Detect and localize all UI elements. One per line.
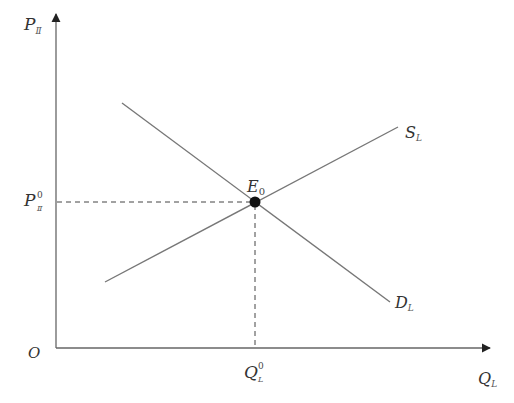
equilibrium-quantity-sub: L <box>257 375 263 384</box>
y-axis-label: PⅡ <box>23 14 42 36</box>
demand-label: DL <box>394 293 414 313</box>
equilibrium-price-sub: Ⅱ <box>36 204 43 213</box>
supply-label: SL <box>405 123 422 143</box>
equilibrium-quantity-sup: 0 <box>258 361 264 371</box>
x-axis-label: QL <box>478 369 497 389</box>
equilibrium-price-label: P <box>23 190 36 210</box>
equilibrium-price-sup: 0 <box>37 190 43 200</box>
supply-demand-diagram: PⅡ O QL SL DL E0 P 0 Ⅱ Q 0 L <box>0 0 514 403</box>
equilibrium-label: E0 <box>246 177 265 197</box>
equilibrium-quantity-label: Q <box>244 362 258 382</box>
equilibrium-point <box>250 197 261 208</box>
origin-label: O <box>28 344 40 362</box>
